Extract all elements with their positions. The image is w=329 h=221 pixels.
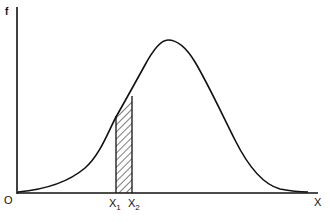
x2-label: X2 (128, 197, 140, 212)
bell-curve (18, 40, 308, 192)
normal-curve-diagram: f O X X1 X2 (0, 0, 329, 221)
shaded-area-x1-x2 (116, 90, 132, 193)
origin-label: O (4, 194, 13, 206)
x-axis-label: X (314, 196, 322, 208)
x1-label: X1 (109, 197, 121, 212)
y-axis-label: f (5, 6, 9, 17)
